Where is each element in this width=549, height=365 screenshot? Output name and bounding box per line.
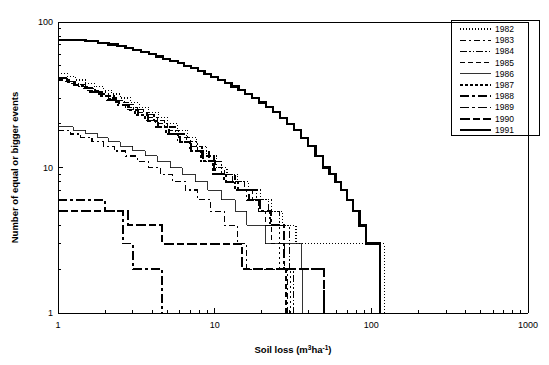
series-line-1986 (58, 127, 303, 313)
legend-entry-1989[interactable]: 1989 (460, 102, 514, 112)
series-line-1988 (58, 78, 324, 313)
legend-entry-1991[interactable]: 1991 (460, 125, 514, 135)
legend-entry-1982[interactable]: 1982 (460, 24, 514, 34)
legend-label-1989: 1989 (495, 102, 514, 112)
legend-label-1990: 1990 (495, 114, 514, 124)
x-tick-label-1: 1 (55, 320, 60, 330)
legend-entry-1984[interactable]: 1984 (460, 46, 514, 56)
series-line-1991 (58, 40, 380, 313)
x-axis-title: Soil loss (m3ha-1) (255, 344, 332, 356)
legend-entry-1987[interactable]: 1987 (460, 80, 514, 90)
figure-container: 1101001101001000Soil loss (m3ha-1)Number… (0, 0, 549, 365)
series-line-1987 (58, 78, 291, 313)
exceedance-chart: 1101001101001000Soil loss (m3ha-1)Number… (0, 0, 549, 365)
series-line-1989 (58, 200, 162, 313)
x-tick-label-1000: 1000 (518, 320, 538, 330)
y-tick-label-1: 1 (48, 308, 53, 318)
series-line-1984 (58, 78, 294, 313)
y-tick-label-100: 100 (38, 17, 53, 27)
x-tick-label-100: 100 (364, 320, 379, 330)
legend-entry-1983[interactable]: 1983 (460, 35, 514, 45)
legend-label-1985: 1985 (495, 58, 514, 68)
y-tick-label-10: 10 (43, 163, 53, 173)
legend-entry-1986[interactable]: 1986 (460, 69, 514, 79)
series-line-1983 (58, 130, 287, 313)
legend-label-1983: 1983 (495, 35, 514, 45)
series-line-1985 (58, 80, 286, 313)
y-axis-title: Number of equal or bigger events (9, 92, 20, 244)
legend-label-1988: 1988 (495, 91, 514, 101)
series-group (58, 40, 384, 313)
legend-label-1987: 1987 (495, 80, 514, 90)
legend-entry-1988[interactable]: 1988 (460, 91, 514, 101)
legend-entry-1990[interactable]: 1990 (460, 114, 514, 124)
legend-label-1982: 1982 (495, 24, 514, 34)
legend-label-1984: 1984 (495, 46, 514, 56)
legend-entry-1985[interactable]: 1985 (460, 58, 514, 68)
legend-label-1991: 1991 (495, 125, 514, 135)
legend-label-1986: 1986 (495, 69, 514, 79)
x-tick-label-10: 10 (210, 320, 220, 330)
